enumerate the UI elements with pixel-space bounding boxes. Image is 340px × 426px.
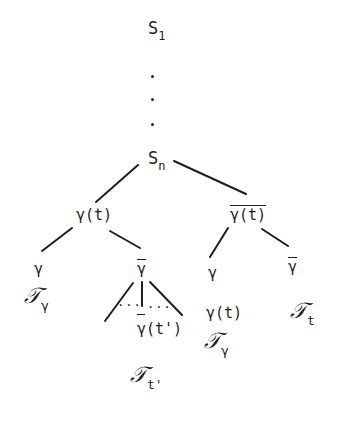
script-sub: t [307, 313, 315, 328]
script-t-glyph: 𝒯 [204, 328, 221, 353]
fan-right-dots: ... [147, 298, 172, 310]
ellipsis-dot [151, 98, 154, 101]
tree-diagram: S1 Sn γ(t) γ(t) γ γ 𝒯γ ... ... γ(t') 𝒯t'… [0, 0, 340, 426]
script-t-glyph: 𝒯 [130, 362, 147, 387]
sn-sub: n [158, 159, 165, 173]
leaf-script-t-gamma-right: 𝒯γ [204, 330, 229, 352]
root-base: S [148, 18, 158, 38]
edge-sn-right [174, 161, 246, 194]
edge-sn-left [96, 165, 138, 202]
sn-node: Sn [148, 150, 165, 167]
edge-right-gamma [210, 228, 228, 257]
right-gamma-t-node: γ(t) [206, 306, 242, 321]
right-branch-node: γ(t) [230, 208, 266, 223]
ellipsis-dot [151, 123, 154, 126]
script-sub: γ [41, 298, 49, 313]
leaf-script-t-gamma: 𝒯γ [24, 285, 49, 307]
gammabar-tprime-label: γ(t') [137, 320, 182, 338]
right-gammabar-node: γ [288, 260, 297, 275]
script-t-glyph: 𝒯 [24, 283, 41, 308]
edge-left-gamma [42, 228, 72, 251]
ellipsis-dot [151, 75, 154, 78]
tree-edges [0, 0, 340, 426]
leaf-script-t-t: 𝒯t [290, 300, 315, 322]
overline-mark [137, 314, 145, 315]
fan-left-dots: ... [117, 296, 142, 308]
root-node: S1 [148, 20, 165, 37]
root-sub: 1 [158, 29, 165, 43]
script-sub: γ [221, 343, 229, 358]
left-gamma-node: γ [34, 262, 43, 277]
leaf-script-t-tprime: 𝒯t' [130, 364, 163, 386]
sn-base: S [148, 148, 158, 168]
edge-right-gammabar [262, 229, 288, 246]
left-branch-node: γ(t) [76, 208, 112, 223]
gammabar-tprime-node: γ(t') [137, 322, 182, 337]
script-sub: t' [147, 377, 163, 392]
right-gamma-node: γ [208, 266, 217, 281]
edge-left-gammabar [110, 231, 140, 248]
left-gammabar-node: γ [137, 262, 146, 277]
script-t-glyph: 𝒯 [290, 298, 307, 323]
